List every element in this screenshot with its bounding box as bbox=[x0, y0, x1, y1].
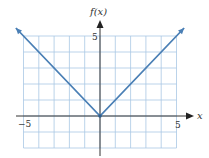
absolute-value-graph: f(x) x −5 5 5 bbox=[0, 0, 209, 158]
x-axis-arrow-icon bbox=[186, 113, 194, 120]
y-tick-max: 5 bbox=[92, 32, 98, 42]
y-axis-arrow-icon bbox=[97, 20, 104, 28]
x-axis-label: x bbox=[197, 110, 203, 121]
x-tick-min: −5 bbox=[18, 119, 32, 129]
x-tick-max: 5 bbox=[175, 120, 181, 130]
y-axis-label: f(x) bbox=[89, 6, 107, 17]
axes bbox=[16, 20, 194, 156]
vertex-point bbox=[98, 114, 102, 118]
